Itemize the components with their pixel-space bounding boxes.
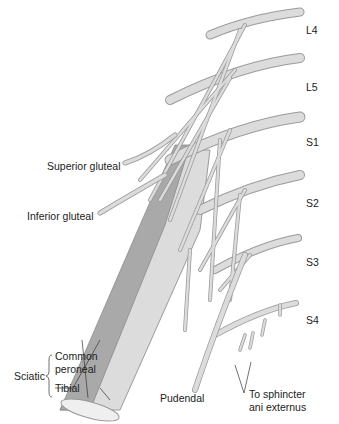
label-common-peroneal-1: Common (55, 350, 98, 362)
label-inferior-gluteal: Inferior gluteal (27, 210, 94, 222)
label-superior-gluteal: Superior gluteal (47, 160, 121, 172)
label-tibial: Tibial (55, 382, 80, 394)
label-sphincter-2: ani externus (249, 401, 306, 413)
label-sphincter-1: To sphincter (249, 388, 306, 400)
root-label-s1: S1 (306, 136, 319, 148)
label-pudendal: Pudendal (160, 392, 204, 404)
root-label-s4: S4 (306, 314, 319, 326)
label-sciatic: Sciatic (14, 370, 45, 382)
label-common-peroneal-2: peroneal (55, 363, 96, 375)
root-label-l4: L4 (306, 24, 318, 36)
root-label-l5: L5 (306, 81, 318, 93)
root-label-s3: S3 (306, 256, 319, 268)
root-label-s2: S2 (306, 197, 319, 209)
